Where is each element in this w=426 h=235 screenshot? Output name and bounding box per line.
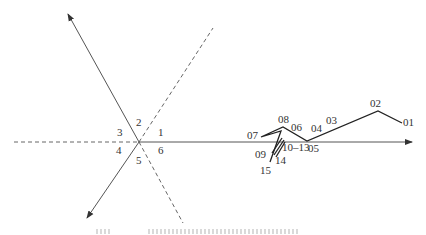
track-point-label-09: 09	[255, 148, 267, 160]
track-point-label-01: 01	[403, 116, 414, 128]
track-point-label-06: 06	[291, 121, 303, 133]
sector-label-4: 4	[116, 144, 122, 156]
track-point-label-07: 07	[247, 129, 259, 141]
sector-label-5: 5	[136, 154, 142, 166]
sector-label-1: 1	[158, 126, 164, 138]
track-point-label-08: 08	[278, 113, 290, 125]
sector-track-diagram: 123456 01020304050607080910–131415	[0, 0, 426, 235]
dashed-upper-right	[139, 28, 213, 142]
sector-label-3: 3	[117, 126, 123, 138]
track-point-label-15: 15	[260, 164, 272, 176]
figure-caption-truncated	[0, 229, 426, 235]
track-point-label-10–13: 10–13	[282, 141, 310, 153]
track-point-label-14: 14	[275, 154, 287, 166]
dashed-axes	[14, 28, 213, 223]
axis-upper-left	[68, 14, 139, 142]
track-point-label-02: 02	[370, 97, 381, 109]
track-point-labels: 01020304050607080910–131415	[247, 97, 414, 176]
axis-lower-left	[87, 142, 139, 218]
track-point-label-03: 03	[326, 114, 338, 126]
track-point-label-05: 05	[308, 142, 320, 154]
track-point-label-04: 04	[311, 122, 323, 134]
solid-axes	[68, 14, 412, 218]
sector-label-2: 2	[136, 116, 142, 128]
sector-label-6: 6	[158, 144, 164, 156]
